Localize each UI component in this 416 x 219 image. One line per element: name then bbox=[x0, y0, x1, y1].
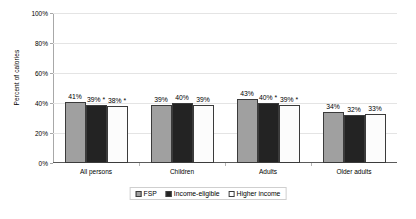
y-axis-title: Percent of calories bbox=[13, 18, 20, 138]
legend-item[interactable]: Income-eligible bbox=[166, 190, 220, 197]
bar-slot: 39% * bbox=[86, 13, 107, 163]
bar[interactable] bbox=[344, 115, 365, 163]
x-axis-category-label: Adults bbox=[225, 168, 311, 175]
bar-slot: 43% bbox=[237, 13, 258, 163]
bar[interactable] bbox=[172, 103, 193, 163]
x-axis-category-label: Children bbox=[139, 168, 225, 175]
bar-value-label: 39% bbox=[196, 96, 210, 103]
y-axis-tick-label: 20% bbox=[35, 130, 48, 137]
legend-swatch-icon bbox=[136, 191, 142, 197]
bar-slot: 33% bbox=[365, 13, 386, 163]
bar[interactable] bbox=[237, 99, 258, 164]
bar[interactable] bbox=[258, 103, 279, 163]
y-axis-tick-label: 80% bbox=[35, 40, 48, 47]
bar-group-bars: 39%40%39% bbox=[139, 13, 225, 163]
y-axis-tick-label: 40% bbox=[35, 100, 48, 107]
bar-slot: 34% bbox=[323, 13, 344, 163]
x-axis-group-tick bbox=[139, 163, 140, 166]
bar-slot: 39% bbox=[151, 13, 172, 163]
legend-item[interactable]: Higher income bbox=[229, 190, 281, 197]
bar-value-label: 34% bbox=[326, 103, 340, 110]
bar-slot: 39% * bbox=[279, 13, 300, 163]
y-axis-tick-label: 100% bbox=[31, 10, 48, 17]
y-axis-tick bbox=[50, 163, 53, 164]
bar-slot: 40% * bbox=[258, 13, 279, 163]
bar-value-label: 38% * bbox=[108, 97, 126, 104]
bar-group: 34%32%33%Older adults bbox=[311, 13, 397, 163]
bar[interactable] bbox=[193, 105, 214, 164]
bar-value-label: 43% bbox=[240, 90, 254, 97]
bar-slot: 41% bbox=[65, 13, 86, 163]
bar[interactable] bbox=[151, 105, 172, 164]
bar-value-label: 41% bbox=[68, 93, 82, 100]
x-axis-group-tick bbox=[311, 163, 312, 166]
bar[interactable] bbox=[365, 114, 386, 164]
x-axis-group-tick bbox=[225, 163, 226, 166]
bar-group: 43%40% *39% *Adults bbox=[225, 13, 311, 163]
bar[interactable] bbox=[107, 106, 128, 163]
bar[interactable] bbox=[65, 102, 86, 164]
bar-value-label: 39% * bbox=[87, 96, 105, 103]
bar[interactable] bbox=[279, 105, 300, 164]
bar-slot: 32% bbox=[344, 13, 365, 163]
bar-value-label: 39% bbox=[154, 96, 168, 103]
x-axis-category-label: All persons bbox=[53, 168, 139, 175]
bar-group: 39%40%39%Children bbox=[139, 13, 225, 163]
bar-slot: 39% bbox=[193, 13, 214, 163]
legend-swatch-icon bbox=[229, 191, 235, 197]
y-axis-tick-label: 60% bbox=[35, 70, 48, 77]
bar-value-label: 32% bbox=[347, 106, 361, 113]
bar-chart: Percent of calories 0%20%40%60%80%100% 4… bbox=[0, 0, 416, 219]
bar-value-label: 39% * bbox=[280, 96, 298, 103]
bar[interactable] bbox=[323, 112, 344, 163]
bar-value-label: 40% * bbox=[259, 94, 277, 101]
legend-label: Income-eligible bbox=[174, 190, 220, 197]
bar-value-label: 33% bbox=[368, 105, 382, 112]
bar-group-bars: 41%39% *38% * bbox=[53, 13, 139, 163]
bar-group: 41%39% *38% *All persons bbox=[53, 13, 139, 163]
legend-label: FSP bbox=[144, 190, 157, 197]
legend-swatch-icon bbox=[166, 191, 172, 197]
bar-value-label: 40% bbox=[175, 94, 189, 101]
legend-label: Higher income bbox=[237, 190, 281, 197]
legend-item[interactable]: FSP bbox=[136, 190, 157, 197]
bar-group-bars: 34%32%33% bbox=[311, 13, 397, 163]
x-axis-category-label: Older adults bbox=[311, 168, 397, 175]
bar-slot: 38% * bbox=[107, 13, 128, 163]
y-axis-tick-label: 0% bbox=[39, 160, 48, 167]
bar-slot: 40% bbox=[172, 13, 193, 163]
chart-legend: FSPIncome-eligibleHigher income bbox=[130, 187, 287, 200]
plot-area: 0%20%40%60%80%100% 41%39% *38% *All pers… bbox=[53, 13, 397, 163]
bar-group-bars: 43%40% *39% * bbox=[225, 13, 311, 163]
bar[interactable] bbox=[86, 105, 107, 164]
